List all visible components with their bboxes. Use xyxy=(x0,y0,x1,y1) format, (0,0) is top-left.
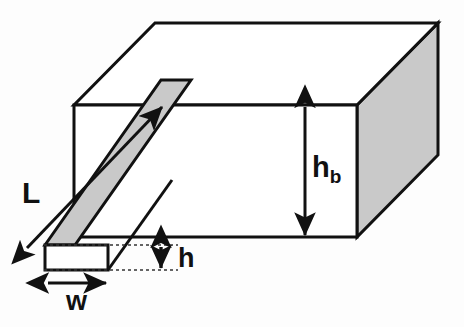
label-width-w: w xyxy=(66,288,87,315)
figure-canvas: L w h hb xyxy=(0,0,464,327)
label-fin-height-h: h xyxy=(178,245,195,272)
isometric-block-fin-diagram xyxy=(0,0,464,327)
label-hb-base: h xyxy=(312,151,330,183)
fin-end-face xyxy=(45,245,108,270)
label-hb-subscript: b xyxy=(330,166,342,187)
label-base-height-hb: hb xyxy=(312,153,341,182)
label-length-L: L xyxy=(22,178,40,208)
